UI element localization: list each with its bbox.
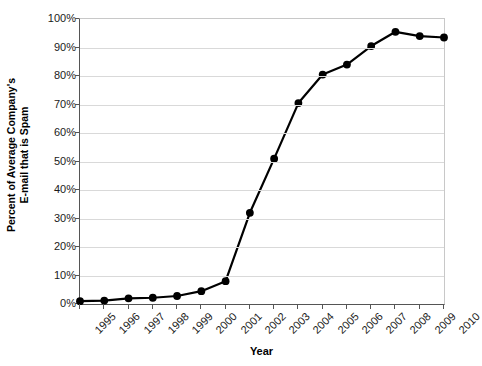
x-axis-tick-label: 2002 xyxy=(262,310,288,336)
data-point-marker: 2010: 93.5% xyxy=(440,34,448,42)
gridline xyxy=(80,247,444,248)
data-point-marker: 1997: 2% xyxy=(125,294,133,302)
x-axis-tick-label: 2007 xyxy=(383,310,409,336)
y-axis-title: Percent of Average Company's E-mail that… xyxy=(0,0,36,310)
x-axis-tick-mark xyxy=(249,304,250,309)
y-axis-tick-label: 0% xyxy=(38,297,76,309)
data-point-marker: 2008: 95.5% xyxy=(392,28,400,36)
data-point-marker: 2009: 94% xyxy=(416,32,424,40)
x-axis-tick-labels: 1995199619971998199920002001200220032004… xyxy=(79,310,444,350)
x-axis-tick-mark xyxy=(346,304,347,309)
x-axis-tick-label: 2009 xyxy=(432,310,458,336)
x-axis-tick-mark xyxy=(419,304,420,309)
x-axis-tick-mark xyxy=(297,304,298,309)
x-axis-tick-mark xyxy=(273,304,274,309)
data-point-marker: 2000: 4.5% xyxy=(197,287,205,295)
y-axis-title-line-2: E-mail that is Spam xyxy=(18,78,31,232)
data-point-marker: 2007: 90.5% xyxy=(367,42,375,50)
gridline xyxy=(80,48,444,49)
x-axis-tick-label: 1995 xyxy=(92,310,118,336)
y-axis-tick-label: 90% xyxy=(38,41,76,53)
data-point-marker: 2001: 8% xyxy=(222,277,230,285)
x-axis-tick-mark xyxy=(394,304,395,309)
y-axis-tick-labels: 0%10%20%30%40%50%60%70%80%90%100% xyxy=(34,0,76,366)
series-line xyxy=(80,32,444,301)
y-axis-tick-label: 60% xyxy=(38,126,76,138)
gridline xyxy=(80,162,444,163)
x-axis-tick-mark xyxy=(322,304,323,309)
x-axis-tick-label: 2000 xyxy=(213,310,239,336)
y-axis-tick-label: 70% xyxy=(38,98,76,110)
x-axis-tick-mark xyxy=(152,304,153,309)
x-axis-tick-mark xyxy=(128,304,129,309)
x-axis-tick-label: 2004 xyxy=(311,310,337,336)
gridline xyxy=(80,219,444,220)
y-axis-title-line-1: Percent of Average Company's xyxy=(5,78,18,232)
y-axis-tick-label: 80% xyxy=(38,69,76,81)
x-axis-tick-mark xyxy=(370,304,371,309)
x-axis-tick-label: 2010 xyxy=(456,310,482,336)
y-axis-tick-label: 30% xyxy=(38,212,76,224)
y-axis-tick-label: 10% xyxy=(38,269,76,281)
x-axis-tick-label: 1997 xyxy=(141,310,167,336)
gridline xyxy=(80,190,444,191)
y-axis-tick-label: 40% xyxy=(38,183,76,195)
data-point-marker: 1999: 2.8% xyxy=(173,292,181,300)
x-axis-tick-label: 1999 xyxy=(189,310,215,336)
x-axis-tick-label: 2001 xyxy=(238,310,264,336)
y-axis-tick-label: 100% xyxy=(38,12,76,24)
x-axis-tick-label: 1998 xyxy=(165,310,191,336)
x-axis-tick-mark xyxy=(176,304,177,309)
data-point-marker: 2002: 32% xyxy=(246,209,254,217)
x-axis-tick-mark xyxy=(103,304,104,309)
x-axis-tick-label: 2008 xyxy=(408,310,434,336)
y-axis-tick-label: 50% xyxy=(38,155,76,167)
plot-area: 1995: 1%1996: 1.2%1997: 2%1998: 2.2%1999… xyxy=(79,18,445,305)
x-axis-tick-mark xyxy=(79,304,80,309)
x-axis-tick-mark xyxy=(443,304,444,309)
x-axis-tick-label: 2005 xyxy=(335,310,361,336)
x-axis-title: Year xyxy=(79,345,444,357)
data-point-marker: 2005: 80.5% xyxy=(319,71,327,79)
gridline xyxy=(80,76,444,77)
x-axis-tick-label: 2006 xyxy=(359,310,385,336)
gridline xyxy=(80,105,444,106)
x-axis-tick-label: 1996 xyxy=(116,310,142,336)
x-axis-tick-label: 2003 xyxy=(286,310,312,336)
gridline xyxy=(80,133,444,134)
data-point-marker: 1998: 2.2% xyxy=(149,294,157,302)
y-axis-tick-label: 20% xyxy=(38,240,76,252)
data-point-marker: 2006: 84% xyxy=(343,61,351,69)
data-point-marker: 2004: 70.5% xyxy=(295,99,303,107)
x-axis-tick-mark xyxy=(200,304,201,309)
gridline xyxy=(80,276,444,277)
x-axis-tick-mark xyxy=(225,304,226,309)
